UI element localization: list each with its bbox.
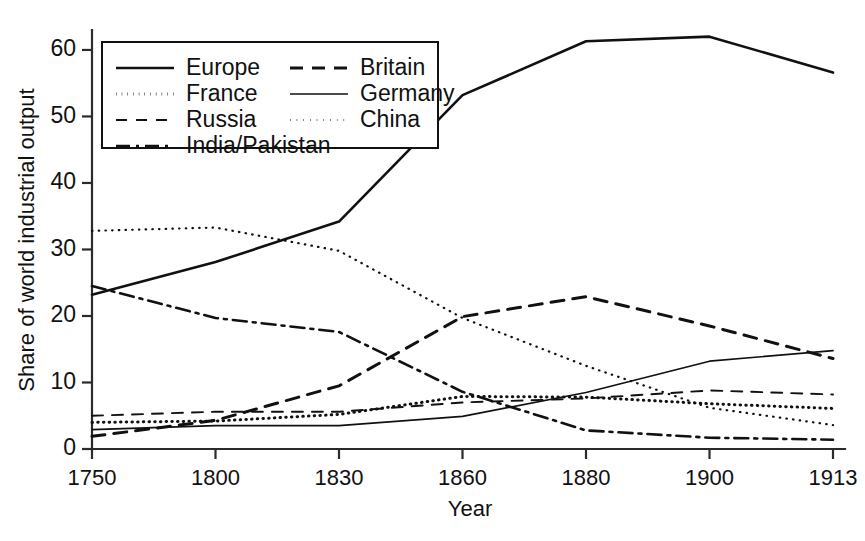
legend-label-india-pakistan: India/Pakistan [186,132,330,158]
y-tick-label: 40 [50,168,76,194]
legend-label-china: China [360,106,420,132]
x-axis-tick-labels: 1750180018301860188019001913 [68,465,858,490]
legend-label-britain: Britain [360,54,425,80]
legend-label-europe: Europe [186,54,260,80]
legend-label-france: France [186,80,258,106]
x-tick-label: 1900 [685,465,734,490]
chart-container: 0102030405060 17501800183018601880190019… [0,0,865,541]
legend-label-russia: Russia [186,106,257,132]
y-tick-label: 50 [50,102,76,128]
series-line-france [92,396,833,422]
x-tick-label: 1860 [438,465,487,490]
chart-legend: EuropeFranceRussiaIndia/PakistanBritainG… [102,42,455,158]
x-tick-label: 1800 [191,465,240,490]
x-tick-label: 1750 [68,465,117,490]
x-axis-title: Year [448,496,492,521]
y-tick-label: 20 [50,301,76,327]
line-chart: 0102030405060 17501800183018601880190019… [0,0,865,541]
y-tick-label: 0 [63,434,76,460]
legend-label-germany: Germany [360,80,455,106]
x-tick-label: 1830 [315,465,364,490]
y-axis-tick-labels: 0102030405060 [50,35,76,460]
y-tick-label: 10 [50,368,76,394]
x-tick-label: 1913 [809,465,858,490]
x-tick-label: 1880 [562,465,611,490]
y-axis-ticks [82,50,92,449]
y-tick-label: 60 [50,35,76,61]
series-line-russia [92,390,833,415]
x-axis-ticks [92,449,833,459]
y-tick-label: 30 [50,235,76,261]
series-line-china [92,228,833,426]
y-axis-title: Share of world industrial output [14,88,39,391]
